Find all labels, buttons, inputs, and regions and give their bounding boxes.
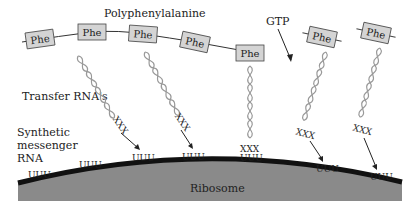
- svg-text:Phe: Phe: [133, 28, 153, 40]
- phe-box-1: Phe: [25, 29, 55, 49]
- mrna-label-line2: messenger: [17, 139, 78, 152]
- binding-arrow-1: [121, 133, 138, 148]
- codon-4: UUU: [182, 152, 205, 162]
- translation-diagram: Ribosome Polyphenylalanine GTP Transfer …: [0, 0, 420, 211]
- codon-6: UUU: [316, 164, 339, 174]
- phe-box-6: Phe: [301, 25, 343, 49]
- trna-helix-5: [358, 47, 382, 117]
- anticodon-1: XXX: [111, 114, 131, 136]
- anticodon-5: XXX: [352, 123, 374, 138]
- trna-helix-2: [143, 51, 181, 117]
- transfer-rna-label: Transfer RNA's: [22, 90, 108, 103]
- phe-box-3: Phe: [128, 25, 157, 43]
- codon-3: UUU: [132, 153, 155, 163]
- phe-box-7: Phe: [355, 21, 397, 45]
- trna-helix-1: [76, 55, 116, 120]
- trna-helix-3: [248, 66, 253, 138]
- gtp-arrowhead: [287, 54, 293, 62]
- anticodon-4: XXX: [295, 127, 317, 142]
- mrna-label-line1: Synthetic: [17, 126, 70, 139]
- phe-box-2: Phe: [78, 24, 106, 40]
- codon-7: UUU: [370, 172, 393, 182]
- svg-text:Phe: Phe: [240, 48, 259, 59]
- binding-arrow-4: [310, 141, 322, 159]
- mrna-label-line3: RNA: [17, 152, 44, 165]
- codon-5: UUU: [240, 153, 263, 163]
- phe-box-4: Phe: [180, 31, 211, 52]
- svg-text:Phe: Phe: [82, 27, 101, 38]
- polyphenylalanine-label: Polyphenylalanine: [104, 7, 206, 20]
- ribosome-label: Ribosome: [190, 182, 245, 195]
- gtp-label: GTP: [266, 15, 290, 28]
- anticodon-2: XXX: [173, 111, 193, 133]
- phe-box-5: Phe: [236, 45, 264, 61]
- codon-1: UUU: [28, 170, 51, 180]
- trna-helix-4: [302, 51, 329, 121]
- binding-arrow-5: [364, 138, 376, 167]
- codon-2: UUU: [79, 160, 102, 170]
